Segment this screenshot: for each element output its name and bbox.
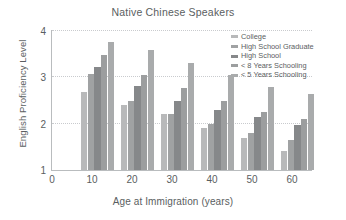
bar-college-age-10 (81, 92, 87, 170)
x-tick-label-20: 20 (126, 174, 137, 185)
chart-title: Native Chinese Speakers (0, 6, 346, 18)
legend-swatch-icon (231, 64, 238, 67)
x-tick-label-0: 0 (49, 174, 55, 185)
bar-high-school-graduate-age-30 (168, 114, 174, 170)
chart-legend: CollegeHigh School GraduateHigh School< … (231, 33, 314, 81)
x-tick-label-50: 50 (246, 174, 257, 185)
bar-high-school-age-20 (134, 86, 140, 170)
bar-5-years-schooling-age-10 (108, 42, 114, 170)
legend-item-high-school[interactable]: High School (231, 52, 314, 60)
legend-item-5-years-schooling[interactable]: < 5 Years Schooling (231, 71, 314, 79)
bar-high-school-graduate-age-60 (288, 140, 294, 170)
bar-high-school-age-10 (94, 67, 100, 170)
bar-high-school-age-50 (254, 117, 260, 170)
bar-5-years-schooling-age-40 (228, 75, 234, 170)
y-tick-label-3: 3 (40, 72, 46, 83)
bar-8-years-schooling-age-60 (301, 119, 307, 170)
legend-item-high-school-graduate[interactable]: High School Graduate (231, 43, 314, 51)
bar-college-age-60 (281, 151, 287, 170)
legend-label: < 5 Years Schooling (241, 71, 307, 79)
bar-5-years-schooling-age-50 (268, 87, 274, 170)
legend-label: High School Graduate (241, 43, 314, 51)
x-tick-label-30: 30 (166, 174, 177, 185)
legend-label: High School (241, 52, 281, 60)
x-tick-label-60: 60 (286, 174, 297, 185)
x-axis-label: Age at Immigration (years) (0, 196, 346, 207)
y-tick-label-4: 4 (40, 26, 46, 37)
bar-college-age-50 (241, 138, 247, 170)
bar-8-years-schooling-age-50 (261, 112, 267, 170)
legend-label: College (241, 33, 266, 41)
legend-swatch-icon (231, 35, 238, 38)
y-tick-label-2: 2 (40, 118, 46, 129)
bar-high-school-age-40 (214, 110, 220, 170)
legend-swatch-icon (231, 55, 238, 58)
y-axis-label: English Proficiency Level (17, 24, 28, 164)
x-tick-label-10: 10 (86, 174, 97, 185)
bar-high-school-graduate-age-20 (128, 101, 134, 171)
bar-college-age-20 (121, 105, 127, 170)
x-axis-line (51, 170, 312, 171)
bar-8-years-schooling-age-30 (181, 88, 187, 170)
bar-5-years-schooling-age-20 (148, 50, 154, 170)
bar-high-school-graduate-age-40 (208, 124, 214, 170)
bar-high-school-age-60 (294, 125, 300, 170)
gridline-y-4 (52, 30, 312, 31)
legend-swatch-icon (231, 74, 238, 77)
legend-swatch-icon (231, 45, 238, 48)
bar-8-years-schooling-age-10 (101, 55, 107, 170)
x-tick-label-40: 40 (206, 174, 217, 185)
bar-high-school-age-30 (174, 101, 180, 171)
legend-item-college[interactable]: College (231, 33, 314, 41)
chart-figure: Native Chinese Speakers English Proficie… (0, 0, 346, 220)
bar-8-years-schooling-age-20 (141, 75, 147, 170)
bar-high-school-graduate-age-50 (248, 133, 254, 170)
bar-8-years-schooling-age-40 (221, 101, 227, 171)
bar-college-age-30 (161, 114, 167, 170)
legend-label: < 8 Years Schooling (241, 62, 307, 70)
bar-5-years-schooling-age-60 (308, 94, 314, 170)
bar-high-school-graduate-age-10 (88, 74, 94, 170)
legend-item-8-years-schooling[interactable]: < 8 Years Schooling (231, 62, 314, 70)
y-tick-label-1: 1 (40, 165, 46, 176)
bar-college-age-40 (201, 128, 207, 170)
bar-5-years-schooling-age-30 (188, 63, 194, 170)
